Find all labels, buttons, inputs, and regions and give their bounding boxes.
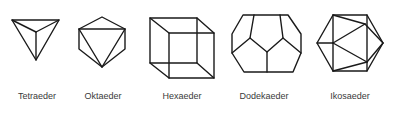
icosahedron-icon	[317, 15, 383, 71]
label-tetraeder: Tetraeder	[18, 91, 56, 101]
label-hexaeder: Hexaeder	[162, 91, 201, 101]
label-ikosaeder: Ikosaeder	[330, 91, 370, 101]
cube-icon	[150, 18, 214, 78]
label-dodekaeder: Dodekaeder	[239, 91, 288, 101]
octahedron-icon	[79, 17, 125, 67]
tetrahedron-icon	[12, 20, 59, 60]
label-oktaeder: Oktaeder	[84, 91, 121, 101]
dodecahedron-icon	[232, 15, 301, 72]
